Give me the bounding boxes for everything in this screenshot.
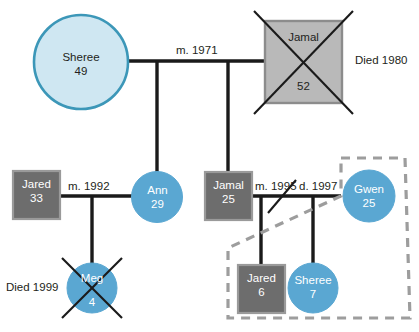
annotation-died-1980: Died 1980 xyxy=(355,54,407,66)
union-3-connectors xyxy=(252,180,341,265)
person-node-jared-33[interactable] xyxy=(13,171,60,219)
person-node-jamal-25[interactable] xyxy=(205,172,252,220)
person-node-sheree-49[interactable] xyxy=(34,15,128,109)
person-node-sheree-7[interactable] xyxy=(288,263,338,313)
union-1-connectors xyxy=(125,61,265,174)
union-label-married-1995: m. 1995 xyxy=(255,180,297,192)
annotation-died-1999: Died 1999 xyxy=(6,281,58,293)
genogram-canvas: Sheree 49 Jamal 52 Jared 33 Ann 29 Jamal… xyxy=(0,0,419,332)
union-2-connectors xyxy=(59,196,133,264)
union-label-married-1992: m. 1992 xyxy=(68,180,110,192)
person-node-ann-29[interactable] xyxy=(132,172,183,223)
union-label-married-1971: m. 1971 xyxy=(176,44,218,56)
person-node-jared-6[interactable] xyxy=(238,265,285,313)
union-label-divorced-1997: d. 1997 xyxy=(299,180,337,192)
person-node-gwen-25[interactable] xyxy=(343,170,395,222)
